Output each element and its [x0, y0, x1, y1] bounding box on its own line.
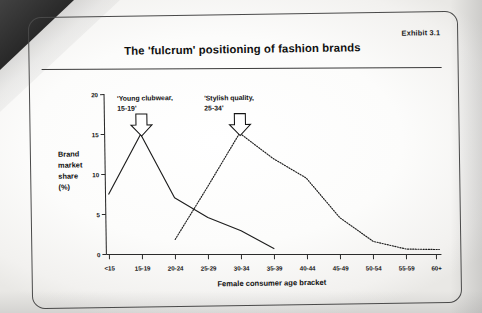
x-tick-label-1: 15-19 [135, 264, 151, 271]
x-axis-title: Female consumer age bracket [217, 278, 326, 289]
y-axis-title-line-3: (%) [58, 183, 70, 192]
y-tick-label-0: 0 [97, 251, 101, 258]
annotation-young-clubwear-line-0: 'Young clubwear, [117, 94, 173, 103]
x-tick-label-4: 30-34 [234, 264, 250, 271]
x-axis-ticks [109, 250, 436, 264]
series-stylish-quality-line [174, 130, 440, 253]
down-arrow-icon-young-clubwear [131, 114, 152, 136]
y-tick-label-20: 20 [91, 91, 99, 98]
annotation-stylish-quality-line-1: 25-34' [204, 104, 224, 111]
annotation-stylish-quality: 'Stylish quality, 25-34' [204, 94, 254, 136]
down-arrow-icon-stylish-quality [229, 113, 250, 135]
x-tick-label-7: 45-49 [333, 264, 349, 271]
x-tick-label-9: 55-59 [399, 264, 415, 271]
x-tick-label-3: 25-29 [201, 264, 217, 271]
x-tick-label-8: 50-54 [366, 264, 382, 271]
series-young-clubwear-line [108, 132, 275, 251]
x-axis-line [106, 250, 441, 260]
y-axis-title-line-1: market [58, 160, 83, 169]
y-axis-title: Brand market share (%) [58, 149, 83, 191]
x-tick-label-0: <15 [104, 264, 115, 271]
y-tick-label-15: 15 [92, 131, 100, 138]
y-axis-title-line-0: Brand [58, 149, 80, 158]
y-axis-title-line-2: share [58, 171, 78, 180]
exhibit-content: Exhibit 3.1 The 'fulcrum' positioning of… [28, 11, 460, 307]
y-tick-label-10: 10 [92, 171, 100, 178]
y-axis-tick-labels: 20 15 10 5 0 [91, 91, 101, 258]
y-tick-label-5: 5 [96, 211, 100, 218]
annotation-young-clubwear-line-1: 15-19' [117, 105, 137, 112]
annotation-stylish-quality-line-0: 'Stylish quality, [204, 94, 254, 103]
x-tick-label-10: 60+ [431, 264, 442, 271]
chart-svg: Brand market share (%) 20 15 10 5 0 [28, 11, 460, 307]
annotation-young-clubwear: 'Young clubwear, 15-19' [117, 94, 174, 136]
x-tick-label-5: 35-39 [267, 264, 283, 271]
x-axis-tick-labels: <15 15-19 20-24 25-29 30-34 35-39 40-44 … [104, 260, 442, 277]
chart-plot-area: Brand market share (%) 20 15 10 5 0 [28, 11, 460, 307]
x-tick-label-2: 20-24 [168, 264, 184, 271]
x-tick-label-6: 40-44 [300, 264, 316, 271]
